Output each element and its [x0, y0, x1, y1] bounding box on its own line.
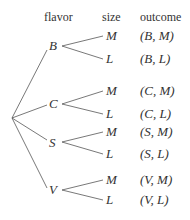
outcome-b-l: (B, L) [140, 52, 170, 66]
size-node-s-l: L [106, 147, 113, 161]
outcome-s-l: (S, L) [140, 147, 169, 161]
size-node-b-m: M [106, 29, 117, 43]
outcome-s-m: (S, M) [140, 125, 173, 139]
size-node-v-m: M [106, 173, 117, 187]
header-outcome: outcome [140, 10, 181, 24]
header-flavor: flavor [44, 10, 73, 24]
outcome-v-m: (V, M) [140, 173, 172, 187]
flavor-node-s: S [49, 136, 56, 150]
flavor-node-c: C [49, 97, 58, 111]
outcome-c-m: (C, M) [140, 84, 175, 98]
size-node-c-l: L [106, 107, 113, 121]
size-node-b-l: L [106, 52, 113, 66]
outcome-v-l: (V, L) [140, 193, 169, 207]
outcome-c-l: (C, L) [140, 107, 171, 121]
header-size: size [102, 10, 121, 24]
size-node-c-m: M [106, 84, 117, 98]
flavor-node-b: B [49, 39, 57, 53]
outcome-b-m: (B, M) [140, 29, 174, 43]
size-node-v-l: L [106, 193, 113, 207]
size-node-s-m: M [106, 125, 117, 139]
flavor-node-v: V [49, 183, 57, 197]
